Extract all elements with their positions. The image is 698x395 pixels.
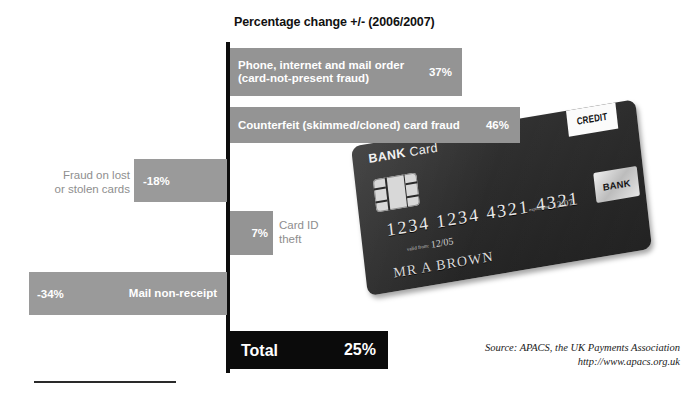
bar-card-id-theft: 7%: [230, 211, 273, 255]
card-chip-line: [375, 200, 387, 203]
card-chip-line: [374, 187, 386, 190]
bar-value: 25%: [344, 341, 376, 359]
card-credit-badge: CREDIT: [566, 101, 618, 137]
card-bank-name-bold: BANK: [368, 146, 407, 166]
bar-lost-or-stolen: -18%: [134, 159, 227, 202]
card-chip-line: [407, 194, 419, 197]
card-bank-name: BANK Card: [368, 140, 439, 166]
bar-label: Total: [241, 344, 278, 357]
card-credit-badge-label: CREDIT: [576, 110, 608, 126]
card-valid-from-caption: valid from:: [407, 243, 430, 252]
bar-value: -34%: [37, 288, 64, 300]
bar-mail-non-receipt: -34% Mail non-receipt: [29, 272, 227, 315]
bar-value: 46%: [486, 119, 509, 131]
card-valid-from-value: 12/05: [430, 235, 454, 250]
footer-divider: [34, 381, 176, 383]
source-line-1: Source: APACS, the UK Payments Associati…: [485, 341, 680, 355]
credit-card-illustration: BANK Card CREDIT 1234 1234 4321 4321 exp…: [368, 146, 668, 328]
bar-value: 37%: [429, 66, 452, 78]
page-title: Percentage change +/- (2006/2007): [234, 15, 435, 29]
card-bank-name-thin: Card: [405, 140, 439, 159]
bar-label-card-id-theft: Card ID theft: [279, 218, 319, 246]
bar-label: Mail non-receipt: [129, 287, 217, 300]
bar-label: Counterfeit (skimmed/cloned) card fraud: [238, 119, 460, 132]
bar-card-not-present: Phone, internet and mail order (card-not…: [230, 48, 462, 96]
bar-value: 7%: [251, 227, 268, 239]
card-bank-logo: BANK: [593, 166, 640, 203]
card-bank-logo-label: BANK: [602, 177, 631, 193]
card-chip-line: [405, 181, 417, 184]
chart-canvas: Percentage change +/- (2006/2007) BANK C…: [0, 0, 698, 395]
card-valid-from-date: valid from:12/05: [406, 235, 454, 254]
bar-value: -18%: [143, 175, 170, 187]
bar-counterfeit: Counterfeit (skimmed/cloned) card fraud …: [230, 107, 520, 143]
bar-total: Total 25%: [230, 331, 388, 369]
bar-label: Phone, internet and mail order (card-not…: [238, 59, 404, 85]
bar-label-lost-or-stolen: Fraud on lost or stolen cards: [44, 168, 130, 196]
source-note: Source: APACS, the UK Payments Associati…: [485, 341, 680, 369]
source-line-2: http://www.apacs.org.uk: [485, 355, 680, 369]
card-chip-icon: [373, 172, 420, 212]
